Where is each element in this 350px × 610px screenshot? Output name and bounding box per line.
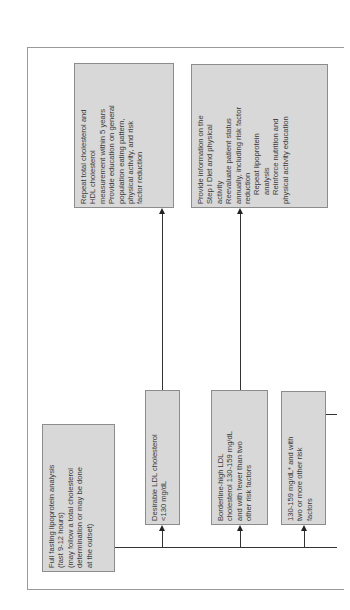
action-box-step-one-diet: Provide information on the Step I Diet a… [191,64,328,208]
action-line: Step I Diet and physical [205,70,214,204]
start-line: determination or may be done [75,430,84,568]
action-line: annually, including risk factor [234,70,243,204]
class-line: factors [305,397,314,521]
class-line: <130 mg/dL [159,396,168,521]
action-box-repeat-total-cholesterol: Repeat total cholesterol and HDL cholest… [74,63,174,208]
arrow-head-icon [301,525,307,531]
action-line: measurement within 5 years [98,69,107,204]
action-line-indented: Repeat lipoprotein [252,70,261,204]
action-line-indented: Reinforce nutrition and [271,70,280,204]
diagram-frame-left [27,47,28,589]
class-line: Desirable LDL cholesterol [150,396,159,521]
start-line: (fast 9-12 hours) [56,430,65,568]
action-line: Provide information on the [196,70,205,204]
action-line: reduction [243,70,252,204]
arrow-head-icon [159,208,165,214]
action-line-indented: analysis [262,70,271,204]
arrow-head-icon [159,525,165,531]
start-line: Full fasting lipoprotein analysis [47,430,56,568]
connector-borderline-to-action [240,210,241,390]
class-box-130-159-two-risk-factors: 130-159 mg/dL* and with two or more othe… [281,391,326,525]
class-line: other risk factors [244,396,253,521]
connector-desirable-to-action [162,210,163,390]
action-line: Provide education on general [107,69,116,204]
start-line: at the outset) [85,430,94,568]
action-line: Repeat total cholesterol and [79,69,88,204]
action-line: HDL cholesterol [88,69,97,204]
connector-trunk [115,547,337,548]
arrow-head-icon [237,525,243,531]
class-line: cholesterol 130-159 mg/dL [225,396,234,521]
start-line: (may follow a total cholesterol [66,430,75,568]
class-line: 130-159 mg/dL* and with [286,397,295,521]
action-line: factor reduction [135,69,144,204]
class-line: two or more other risk [295,397,304,521]
class-line: Borderline-high LDL [216,396,225,521]
diagram-frame-bottom [27,589,344,590]
diagram-frame-top [27,47,344,48]
action-line: physical activity, and risk [126,69,135,204]
action-line: activity [215,70,224,204]
action-line: population eating pattern, [117,69,126,204]
connector-130-159-continuation [326,414,337,415]
arrow-head-icon [237,208,243,214]
class-box-desirable-ldl: Desirable LDL cholesterol <130 mg/dL [145,390,180,525]
class-line: and with fewer than two [235,396,244,521]
action-line: Reevaluate patient status [224,70,233,204]
class-box-borderline-high-ldl: Borderline-high LDL cholesterol 130-159 … [211,390,268,525]
action-line: physical activity education [281,70,290,204]
start-box-full-fasting-lipoprotein: Full fasting lipoprotein analysis (fast … [42,424,115,572]
